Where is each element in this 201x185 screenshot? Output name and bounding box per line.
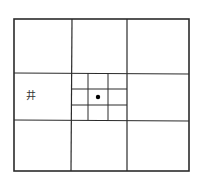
outer-frame — [14, 19, 189, 171]
marker-dot — [96, 95, 100, 99]
major-horizontal-line-2 — [14, 120, 189, 121]
major-horizontal-line-1 — [14, 73, 189, 74]
cell-label-well: 井 — [26, 91, 36, 101]
major-vertical-line-1 — [71, 19, 72, 171]
